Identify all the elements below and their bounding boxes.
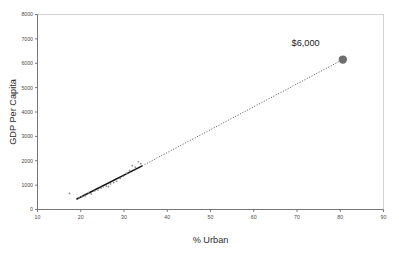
annotation-label: $6,000 [292,38,320,48]
chart-canvas: 010002000300040005000600070008000 102030… [0,0,399,257]
data-point [137,161,139,163]
x-tick-label: 10 [35,214,41,220]
y-tick-label: 0 [30,206,33,212]
x-tick-label: 70 [294,214,300,220]
data-point [102,186,104,188]
data-point [94,190,96,192]
scatter-plot-figure: 010002000300040005000600070008000 102030… [0,0,399,257]
y-tick-label: 2000 [21,158,33,164]
x-tick-label: 50 [208,214,214,220]
y-tick-label: 5000 [21,85,33,91]
data-point [69,193,71,195]
y-tick-label: 8000 [21,11,33,17]
y-tick-label: 6000 [21,60,33,66]
data-point [113,182,115,184]
data-point [126,173,128,175]
data-point [140,163,142,165]
data-point [116,180,118,182]
x-tick-label: 80 [337,214,343,220]
data-point [78,197,80,199]
data-point [105,185,107,187]
data-point [90,193,92,195]
data-point [119,177,121,179]
data-point [122,176,124,178]
data-point [88,192,90,194]
y-axis-tick-labels: 010002000300040005000600070008000 [21,11,33,212]
y-axis-title: GDP Per Capita [8,78,18,145]
x-axis-title: % Urban [193,235,229,245]
data-point [131,165,133,167]
x-tick-label: 90 [381,214,387,220]
x-tick-label: 60 [251,214,257,220]
y-tick-label: 1000 [21,182,33,188]
projected-data-point-marker [339,55,347,63]
x-tick-label: 30 [121,214,127,220]
data-point [81,196,83,198]
data-point [84,195,86,197]
y-tick-label: 3000 [21,133,33,139]
projected-data-point [339,55,347,63]
x-tick-label: 20 [78,214,84,220]
x-tick-label: 40 [164,214,170,220]
y-tick-label: 4000 [21,109,33,115]
data-point [100,187,102,189]
data-point [129,170,131,172]
data-point [108,186,110,188]
data-point [110,183,112,185]
chart-annotations: $6,000 [292,38,320,48]
data-point [97,189,99,191]
data-point [134,166,136,168]
y-tick-label: 7000 [21,36,33,42]
